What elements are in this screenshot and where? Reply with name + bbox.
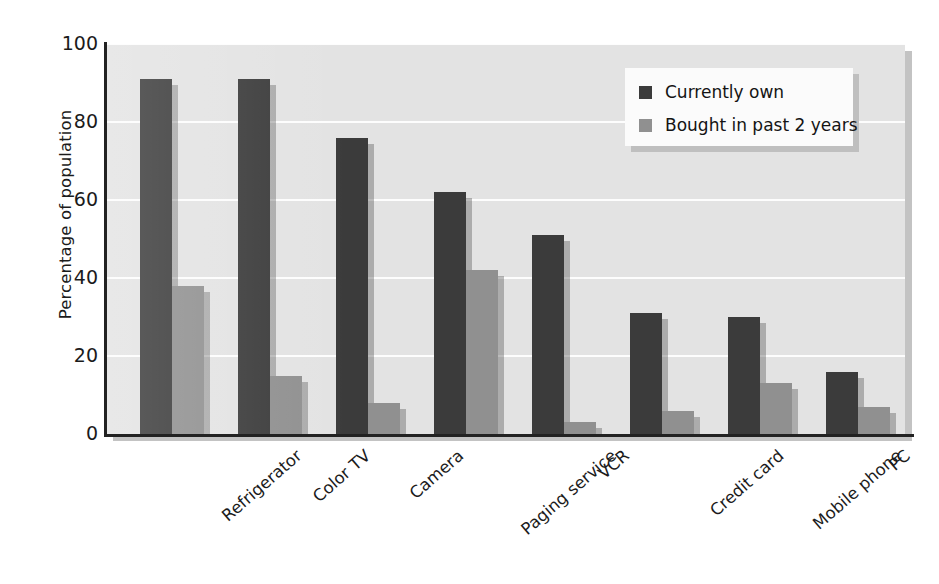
x-axis-tick-label: Refrigerator — [218, 446, 305, 525]
gridline — [106, 277, 905, 279]
bar-shadow — [498, 276, 504, 434]
legend-swatch-icon — [639, 86, 652, 99]
y-axis-tick-label: 20 — [50, 346, 98, 365]
chart-legend: Currently ownBought in past 2 years — [625, 68, 853, 146]
bar-chart-figure: Percentage of population 020406080100 Re… — [0, 0, 939, 584]
bar-currently-own — [532, 235, 564, 434]
x-axis-tick-label: Color TV — [309, 446, 374, 506]
x-axis-line — [104, 434, 914, 437]
x-axis-tick-label: Camera — [406, 446, 467, 503]
bar-currently-own — [140, 79, 172, 434]
bar-bought-past-2-years — [662, 411, 694, 434]
bar-shadow — [890, 413, 896, 434]
bar-shadow — [204, 292, 210, 434]
legend-item-label: Currently own — [665, 84, 784, 101]
y-axis-tick-label: 80 — [50, 112, 98, 131]
bar-currently-own — [630, 313, 662, 434]
y-axis-tick-label: 100 — [50, 34, 98, 53]
legend-item-label: Bought in past 2 years — [665, 117, 858, 134]
y-axis-tick-labels: 020406080100 — [40, 0, 98, 584]
legend-item[interactable]: Currently own — [639, 80, 839, 104]
bar-shadow — [302, 382, 308, 435]
bar-bought-past-2-years — [172, 286, 204, 434]
bar-bought-past-2-years — [368, 403, 400, 434]
gridline — [106, 44, 905, 45]
y-axis-line — [104, 42, 107, 436]
bar-shadow — [564, 241, 570, 434]
bar-shadow — [368, 144, 374, 434]
bar-shadow — [400, 409, 406, 434]
bar-currently-own — [238, 79, 270, 434]
bar-bought-past-2-years — [760, 383, 792, 434]
bar-shadow — [792, 389, 798, 434]
y-axis-tick-label: 40 — [50, 268, 98, 287]
bar-bought-past-2-years — [466, 270, 498, 434]
bar-bought-past-2-years — [270, 376, 302, 435]
y-axis-tick-label: 60 — [50, 190, 98, 209]
x-axis-tick-label: Credit card — [706, 446, 787, 520]
gridline — [106, 355, 905, 357]
legend-item[interactable]: Bought in past 2 years — [639, 113, 839, 137]
bar-currently-own — [434, 192, 466, 434]
bar-currently-own — [336, 138, 368, 434]
gridline — [106, 199, 905, 201]
bar-currently-own — [728, 317, 760, 434]
bar-shadow — [694, 417, 700, 434]
bar-bought-past-2-years — [564, 422, 596, 434]
legend-swatch-icon — [639, 119, 652, 132]
bar-bought-past-2-years — [858, 407, 890, 434]
bar-currently-own — [826, 372, 858, 434]
y-axis-tick-label: 0 — [50, 424, 98, 443]
